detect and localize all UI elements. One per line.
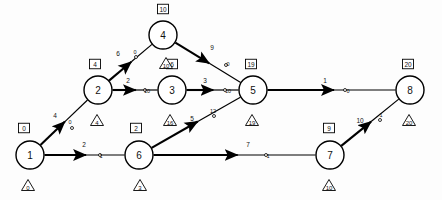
edge-float-label: 0 (68, 119, 71, 125)
edge-duration-label: 7 (246, 141, 250, 148)
earliest-time-value: 4 (93, 61, 97, 68)
earliest-time-value: 10 (159, 6, 167, 13)
node-number: 4 (160, 30, 166, 41)
edge-arrow-segment (341, 122, 371, 146)
edge-float-label: 1 (266, 153, 269, 159)
edge-float-label: 0 (133, 49, 136, 55)
node-2[interactable]: 2 (84, 76, 112, 104)
edge-duration-label: 2 (126, 77, 130, 84)
edge-duration-label: 9 (210, 44, 214, 51)
network-diagram-canvas: 402160210903105127110101 12345678 004461… (0, 0, 442, 200)
diagram-svg: 402160210903105127110101 12345678 004461… (0, 0, 442, 200)
node-8[interactable]: 8 (396, 76, 424, 104)
edge-duration-label: 4 (53, 112, 57, 119)
earliest-time-value: 0 (22, 125, 26, 132)
edge-arrow-segment (40, 122, 64, 145)
edge-segment (371, 99, 399, 121)
earliest-time-value: 2 (134, 125, 138, 132)
edge-duration-label: 3 (203, 77, 207, 84)
edge-float-label: 10 (225, 88, 231, 94)
edge-float-label: 10 (144, 88, 150, 94)
node-5[interactable]: 5 (239, 76, 267, 104)
edge-duration-label: 6 (116, 50, 120, 57)
edge-3-5[interactable]: 310 (187, 77, 239, 94)
node-number: 7 (327, 150, 333, 161)
edge-duration-label: 1 (323, 77, 327, 84)
edge-float-label: 1 (99, 153, 102, 159)
nodes-layer: 12345678 (16, 21, 424, 169)
edge-1-2[interactable]: 40 (40, 100, 87, 145)
edge-7-8[interactable]: 101 (341, 99, 398, 146)
edge-float-label: 12 (210, 108, 216, 114)
latest-time-value: 19 (249, 120, 256, 126)
edge-float-label: 1 (379, 112, 382, 118)
earliest-time-value: 9 (327, 125, 331, 132)
latest-time-value: 10 (163, 63, 170, 69)
edge-float-label: 0 (346, 88, 349, 94)
edge-4-5[interactable]: 90 (175, 43, 240, 83)
node-1[interactable]: 1 (16, 141, 44, 169)
latest-time-value: 16 (167, 120, 174, 126)
edge-2-4[interactable]: 60 (109, 44, 152, 80)
node-number: 1 (27, 150, 33, 161)
node-3[interactable]: 3 (158, 76, 186, 104)
node-number: 3 (169, 85, 175, 96)
edge-midpoint-marker (379, 119, 382, 122)
edge-6-7[interactable]: 71 (154, 141, 316, 159)
edge-1-6[interactable]: 21 (45, 141, 125, 159)
edge-midpoint-marker (135, 56, 138, 59)
edge-segment (198, 97, 241, 121)
edge-midpoint-marker (71, 127, 74, 130)
latest-time-value: 10 (326, 185, 333, 191)
edge-duration-label: 10 (356, 117, 364, 124)
edge-arrow-segment (175, 43, 209, 64)
node-6[interactable]: 6 (125, 141, 153, 169)
edge-midpoint-marker (213, 115, 216, 118)
node-number: 2 (95, 85, 101, 96)
node-number: 6 (136, 150, 142, 161)
edge-duration-label: 5 (190, 115, 194, 122)
node-number: 8 (407, 85, 413, 96)
edge-duration-label: 2 (82, 141, 86, 148)
earliest-time-value: 19 (247, 61, 255, 68)
node-4[interactable]: 4 (149, 21, 177, 49)
edge-2-3[interactable]: 210 (113, 77, 158, 94)
edge-float-label: 0 (226, 61, 229, 67)
edge-5-8[interactable]: 10 (268, 77, 396, 94)
node-7[interactable]: 7 (316, 141, 344, 169)
node-number: 5 (250, 85, 256, 96)
latest-time-value: 20 (406, 120, 413, 126)
earliest-time-value: 20 (404, 61, 412, 68)
annotations-layer: 004461610101919239102020 (19, 4, 416, 190)
